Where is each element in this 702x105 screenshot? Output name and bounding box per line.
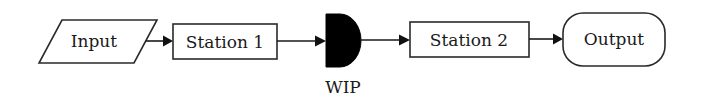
node-output: Output — [563, 13, 665, 66]
wip-delay-shape — [326, 14, 361, 67]
node-input: Input — [39, 20, 157, 63]
node-station1: Station 1 — [173, 24, 277, 59]
node-station2: Station 2 — [410, 22, 529, 57]
arrowhead-icon — [163, 36, 173, 47]
arrow-station2-to-output — [529, 34, 563, 45]
output-label: Output — [584, 29, 645, 49]
arrow-wip-to-station2 — [360, 35, 410, 46]
arrowhead-icon — [553, 34, 563, 45]
flow-diagram: Input Station 1 WIP Station 2 Output — [0, 0, 702, 105]
arrowhead-icon — [399, 35, 410, 46]
arrow-station1-to-wip — [277, 36, 326, 47]
station2-label: Station 2 — [430, 30, 508, 50]
input-label: Input — [71, 31, 117, 51]
node-wip: WIP — [325, 14, 361, 97]
arrowhead-icon — [315, 36, 326, 47]
station1-label: Station 1 — [186, 32, 264, 52]
wip-label: WIP — [325, 77, 361, 97]
arrow-input-to-station1 — [146, 36, 173, 47]
